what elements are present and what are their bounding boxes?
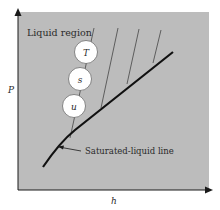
circle-label-u: u	[71, 102, 77, 112]
y-axis-label: P	[7, 85, 15, 95]
x-axis-label: h	[111, 196, 117, 206]
circle-label-s: s	[78, 75, 83, 85]
ph-diagram: Liquid region T s u Saturated-liquid lin…	[0, 0, 220, 210]
region-label: Liquid region	[27, 27, 92, 38]
circle-label-T: T	[83, 48, 90, 58]
curve-label: Saturated-liquid line	[85, 146, 174, 156]
